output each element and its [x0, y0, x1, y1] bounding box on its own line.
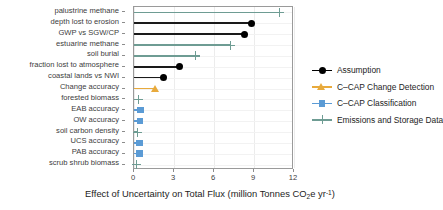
chart-row [134, 40, 292, 51]
chart-row [134, 94, 292, 105]
y-axis-tick [122, 98, 125, 99]
y-axis-tick-label: Change accuracy [60, 82, 119, 93]
y-axis-tick-label: PAB accuracy [72, 147, 119, 158]
chart-row [134, 18, 292, 29]
y-axis-tick [122, 120, 125, 121]
legend-triangle-icon [312, 81, 332, 93]
y-axis-tick [122, 44, 125, 45]
y-axis-tick-label: scrub shrub biomass [49, 158, 119, 169]
legend-item[interactable]: Emissions and Storage Data [312, 112, 443, 129]
y-axis-tick [122, 22, 125, 23]
y-axis-tick [122, 77, 125, 78]
y-axis-tick-label: forested biomass [61, 93, 119, 104]
legend-marker [319, 100, 326, 107]
y-axis-tick [122, 55, 125, 56]
x-axis-tick-label: 9 [251, 173, 255, 182]
x-axis-tick-label: 3 [171, 173, 175, 182]
y-axis-tick-label: GWP vs SGW/CP [58, 28, 119, 39]
y-axis-tick-label: palustrine methane [54, 6, 119, 17]
data-bar [134, 77, 163, 79]
legend-plus-icon [312, 114, 332, 126]
chart-legend: AssumptionC–CAP Change DetectionC–CAP Cl… [312, 62, 443, 128]
data-marker [134, 95, 143, 104]
chart-row [134, 29, 292, 40]
data-marker [248, 20, 255, 27]
data-bar [134, 33, 245, 35]
x-axis-title-post: ) [332, 188, 335, 199]
x-axis-tick [133, 169, 134, 172]
y-axis-tick-label: soil carbon density [56, 126, 119, 137]
legend-label: Emissions and Storage Data [337, 115, 443, 125]
legend-item[interactable]: C–CAP Change Detection [312, 79, 443, 96]
chart-row [134, 148, 292, 159]
x-axis-tick-label: 12 [289, 173, 297, 182]
chart-row [134, 105, 292, 116]
chart-row [134, 83, 292, 94]
chart-row [134, 137, 292, 148]
data-marker [137, 107, 143, 113]
data-marker [137, 118, 143, 124]
y-axis-tick-label: OW accuracy [73, 115, 119, 126]
data-bar [134, 44, 230, 46]
data-marker [241, 31, 248, 38]
y-axis-tick [122, 33, 125, 34]
y-axis-tick-label: fraction lost to atmosphere [30, 60, 119, 71]
chart-row [134, 127, 292, 138]
y-axis-tick-label: EAB accuracy [71, 104, 119, 115]
data-marker [160, 74, 167, 81]
legend-item[interactable]: C–CAP Classification [312, 95, 443, 112]
y-axis-tick [122, 11, 125, 12]
y-axis-tick [122, 66, 125, 67]
y-axis-tick [122, 109, 125, 110]
data-bar [134, 22, 251, 24]
gridline-vertical [294, 7, 295, 168]
chart-row [134, 116, 292, 127]
data-marker [136, 140, 142, 146]
y-axis-tick [122, 164, 125, 165]
x-axis-tick [253, 169, 254, 172]
data-marker [151, 85, 159, 92]
y-axis-tick-label: depth lost to erosion [51, 17, 119, 28]
legend-circle-icon [312, 64, 332, 76]
x-axis-title: Effect of Uncertainty on Total Flux (mil… [0, 188, 420, 200]
data-marker [133, 128, 142, 137]
data-bar [134, 12, 279, 14]
x-axis-tick [293, 169, 294, 172]
data-marker [226, 41, 235, 50]
chart-row [134, 72, 292, 83]
x-axis-title-mid: e yr [310, 188, 326, 199]
chart-row [134, 50, 292, 61]
legend-label: C–CAP Change Detection [337, 82, 434, 92]
chart-row [134, 61, 292, 72]
x-axis-title-pre: Effect of Uncertainty on Total Flux (mil… [85, 188, 306, 199]
y-axis-tick-label: UCS accuracy [70, 136, 119, 147]
legend-label: C–CAP Classification [337, 98, 416, 108]
y-axis-labels: palustrine methanedepth lost to erosionG… [0, 6, 126, 169]
y-axis-tick [122, 153, 125, 154]
data-marker [191, 51, 200, 60]
legend-marker [319, 67, 326, 74]
legend-item[interactable]: Assumption [312, 62, 443, 79]
y-axis-tick-label: estuarine methane [56, 39, 119, 50]
y-axis-tick [122, 88, 125, 89]
legend-marker [317, 83, 325, 90]
legend-label: Assumption [337, 65, 381, 75]
plot-area [133, 6, 293, 169]
legend-square-icon [312, 97, 332, 109]
x-axis-tick [213, 169, 214, 172]
data-marker [132, 160, 141, 169]
chart-row [134, 7, 292, 18]
y-axis-tick [122, 131, 125, 132]
y-axis-tick-label: coastal lands vs NWI [48, 71, 119, 82]
data-marker [136, 150, 142, 156]
data-marker [176, 63, 183, 70]
data-bar [134, 66, 179, 68]
data-marker [275, 8, 284, 17]
x-axis-tick [173, 169, 174, 172]
x-axis-tick-label: 0 [131, 173, 135, 182]
x-axis-tick-label: 6 [211, 173, 215, 182]
legend-marker [318, 115, 327, 124]
y-axis-tick [122, 142, 125, 143]
data-bar [134, 55, 195, 57]
